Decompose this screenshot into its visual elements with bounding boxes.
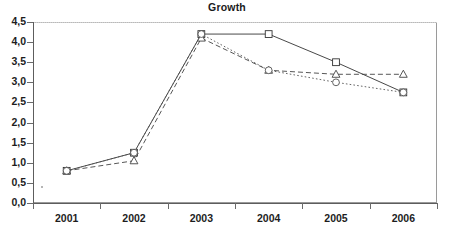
data-point-square (333, 59, 340, 66)
data-point-square (265, 31, 272, 38)
growth-line-chart: Growth 0,00,51,01,52,02,53,03,54,04,5 20… (0, 0, 454, 249)
data-point-circle (265, 67, 272, 74)
data-point-circle (333, 79, 340, 86)
series-line-square (67, 34, 404, 171)
series-line-triangle (67, 38, 404, 171)
data-point-triangle (130, 157, 138, 164)
series-line-circle (67, 34, 404, 171)
data-point-triangle (399, 70, 407, 77)
data-point-circle (198, 31, 205, 38)
data-point-circle (400, 89, 407, 96)
data-point-circle (131, 149, 138, 156)
data-point-circle (63, 167, 70, 174)
series-layer (0, 0, 454, 249)
